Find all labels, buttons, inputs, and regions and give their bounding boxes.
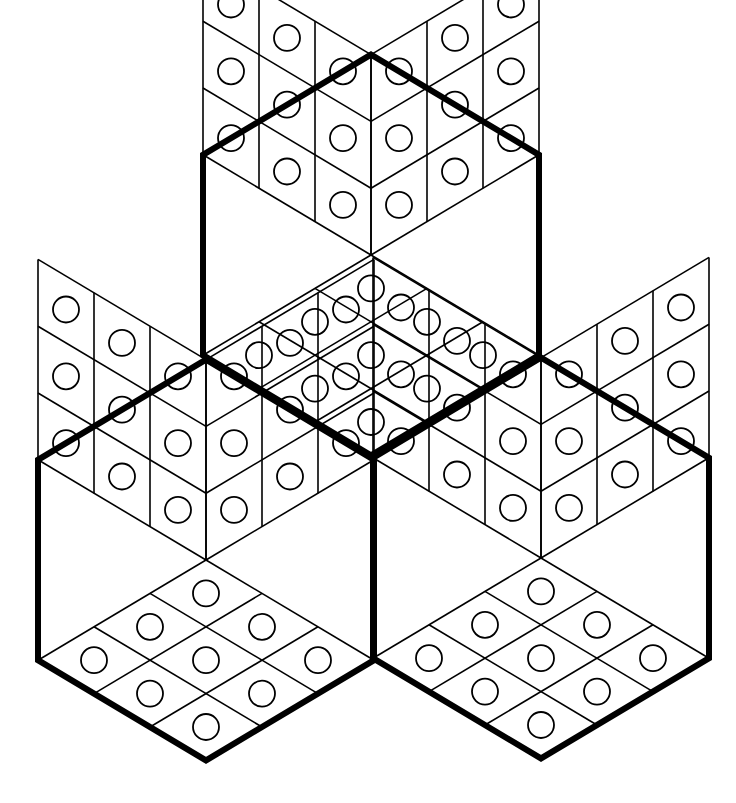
circle-icon	[218, 0, 244, 18]
grid-line	[38, 259, 206, 359]
circle-icon	[218, 58, 244, 84]
circle-icon	[274, 25, 300, 51]
circle-icon	[416, 645, 442, 671]
grid-line	[203, 155, 371, 255]
grid-line	[315, 288, 483, 388]
circle-icon	[612, 328, 638, 354]
circle-icon	[498, 0, 524, 18]
circle-icon	[302, 376, 328, 402]
circle-icon	[472, 679, 498, 705]
grid-line	[206, 560, 374, 660]
circle-icon	[277, 464, 303, 490]
circle-icon	[414, 376, 440, 402]
circle-icon	[249, 681, 275, 707]
circle-icon	[137, 681, 163, 707]
circle-icon	[498, 58, 524, 84]
figure-canvas	[0, 0, 736, 803]
circle-icon	[668, 295, 694, 321]
grid-line	[373, 558, 541, 658]
circle-icon	[53, 363, 79, 389]
right-hexagon-bottom-face	[373, 558, 709, 758]
circle-icon	[333, 297, 359, 323]
circle-icon	[305, 647, 331, 673]
left-hexagon-bottom-face	[38, 560, 374, 760]
grid-line	[371, 155, 539, 255]
grid-line	[206, 259, 374, 359]
circle-icon	[472, 612, 498, 638]
grid-line	[38, 560, 206, 660]
circle-icon	[193, 714, 219, 740]
circle-icon	[221, 497, 247, 523]
circle-icon	[358, 275, 384, 301]
grid-line	[203, 0, 371, 55]
circle-icon	[221, 430, 247, 456]
circle-icon	[668, 361, 694, 387]
circle-icon	[414, 309, 440, 335]
circle-icon	[165, 497, 191, 523]
circle-icon	[528, 645, 554, 671]
grid-line	[206, 460, 374, 560]
circle-icon	[386, 192, 412, 218]
grid-line	[485, 591, 653, 691]
circle-icon	[165, 430, 191, 456]
circle-icon	[277, 330, 303, 356]
grid-line	[371, 255, 539, 355]
circle-icon	[500, 428, 526, 454]
circle-icon	[556, 495, 582, 521]
grid-line	[371, 0, 539, 55]
grid-line	[541, 458, 709, 558]
circle-icon	[109, 464, 135, 490]
circle-icon	[358, 342, 384, 368]
circle-icon	[612, 462, 638, 488]
circle-icon	[388, 295, 414, 321]
circle-icon	[81, 647, 107, 673]
grid-line	[94, 593, 262, 693]
circle-icon	[444, 462, 470, 488]
circle-icon	[470, 342, 496, 368]
circle-icon	[528, 578, 554, 604]
grid-line	[259, 288, 427, 388]
grid-line	[373, 257, 541, 357]
circle-icon	[388, 361, 414, 387]
circle-icon	[246, 342, 272, 368]
circle-icon	[302, 309, 328, 335]
hexagon-puzzle-figure	[0, 0, 736, 803]
circle-icon	[274, 159, 300, 185]
circle-icon	[640, 645, 666, 671]
circle-icon	[333, 363, 359, 389]
circle-icon	[442, 159, 468, 185]
circle-icon	[109, 330, 135, 356]
circle-icon	[193, 647, 219, 673]
circle-icon	[137, 614, 163, 640]
circle-icon	[444, 328, 470, 354]
grid-line	[541, 257, 709, 357]
circle-icon	[528, 712, 554, 738]
circle-icon	[556, 428, 582, 454]
top-hexagon-bottom-face	[203, 255, 539, 455]
circle-icon	[53, 297, 79, 323]
circle-icon	[386, 125, 412, 151]
grid-line	[541, 558, 709, 658]
circle-icon	[584, 612, 610, 638]
circle-icon	[584, 679, 610, 705]
circle-icon	[500, 495, 526, 521]
circle-icon	[249, 614, 275, 640]
circle-icon	[330, 125, 356, 151]
circle-icon	[358, 409, 384, 435]
grid-line	[203, 255, 371, 355]
circle-icon	[330, 192, 356, 218]
grid-line	[373, 458, 541, 558]
grid-line	[150, 593, 318, 693]
grid-line	[429, 591, 597, 691]
circle-icon	[193, 580, 219, 606]
grid-line	[38, 460, 206, 560]
circle-icon	[442, 25, 468, 51]
